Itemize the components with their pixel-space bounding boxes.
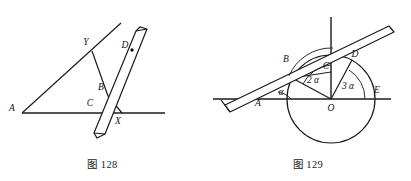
label-X: X <box>114 116 122 126</box>
label-D-129: D <box>351 49 359 59</box>
label-O-129: O <box>328 103 335 113</box>
label-Y: Y <box>83 37 90 47</box>
label-B-129: B <box>283 54 289 64</box>
label-B: B <box>98 82 104 92</box>
label-A: A <box>8 103 15 113</box>
label-E-129: E <box>373 85 380 95</box>
figure-128-caption-text: 图 128 <box>87 159 117 170</box>
figure-129-panel: A B C D E O α 2 α 3 α 图 129 <box>205 0 411 181</box>
figures-page: A Y B C X D 图 128 <box>0 0 411 181</box>
figure-128-panel: A Y B C X D 图 128 <box>0 0 205 181</box>
point-D-dot <box>130 48 133 51</box>
label-three-alpha: 3 α <box>341 81 355 91</box>
label-C: C <box>87 98 94 108</box>
label-C-129: C <box>323 61 330 71</box>
figure-129-drawing: A B C D E O α 2 α 3 α <box>205 0 411 181</box>
label-A-129: A <box>254 98 261 108</box>
figure-128-drawing: A Y B C X D <box>0 0 205 181</box>
label-two-alpha: 2 α <box>307 75 320 85</box>
figure-129-caption-text: 图 129 <box>293 159 323 170</box>
ray-A-Y <box>22 23 121 113</box>
label-D: D <box>121 40 129 50</box>
radius-O-D <box>331 60 352 99</box>
label-alpha: α <box>279 87 285 97</box>
figure-128-caption: 图 128 <box>0 156 205 171</box>
figure-129-caption: 图 129 <box>205 156 411 171</box>
